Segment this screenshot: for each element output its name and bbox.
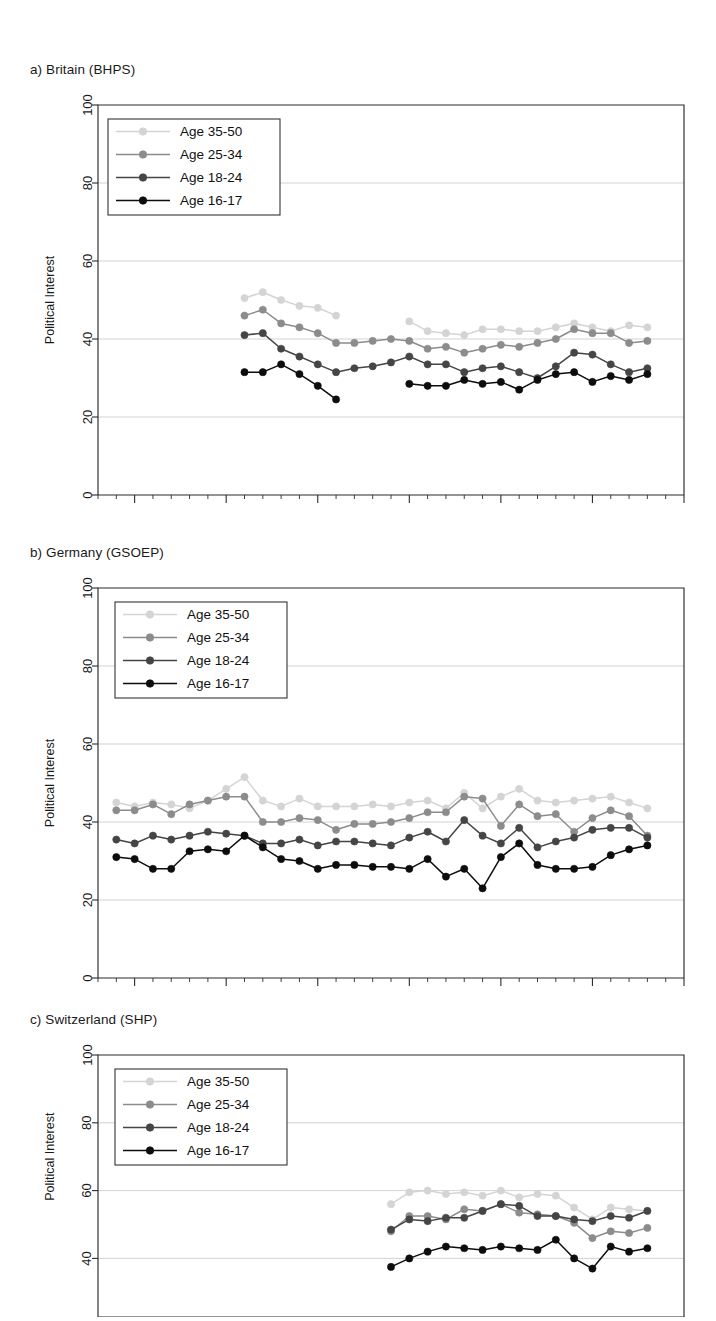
data-point [259,306,266,313]
data-point [351,861,358,868]
data-point [387,1226,394,1233]
y-tick-label: 80 [80,659,95,673]
data-point [479,832,486,839]
legend-swatch-marker-1 [146,611,154,619]
data-point [516,1245,523,1252]
data-point [534,797,541,804]
legend-label-4: Age 16-17 [180,193,242,208]
data-point [241,369,248,376]
data-point [131,855,138,862]
data-point [497,1243,504,1250]
data-point [387,359,394,366]
data-point [186,848,193,855]
data-point [589,351,596,358]
data-point [461,816,468,823]
data-point [552,1236,559,1243]
panel-c-chart: 406080100Political Interest1985199019952… [0,1027,716,1317]
data-point [552,811,559,818]
legend-swatch-marker-3 [146,657,154,665]
data-point [552,335,559,342]
data-point [424,1218,431,1225]
data-point [278,855,285,862]
data-point [589,815,596,822]
series-2 [113,793,651,839]
data-point [442,1243,449,1250]
legend: Age 35-50Age 25-34Age 18-24Age 16-17 [115,602,287,698]
legend-label-4: Age 16-17 [187,1143,249,1158]
data-point [589,1234,596,1241]
legend-label-2: Age 25-34 [187,1097,250,1112]
data-point [149,801,156,808]
legend-swatch-marker-2 [146,1101,154,1109]
data-point [406,380,413,387]
data-point [351,365,358,372]
data-point [625,339,632,346]
data-point [534,339,541,346]
legend-label-1: Age 35-50 [187,1074,249,1089]
data-point [369,863,376,870]
data-point [149,832,156,839]
series-line [116,836,647,889]
y-tick-label: 100 [80,1044,95,1066]
data-point [461,349,468,356]
data-point [552,324,559,331]
data-point [332,339,339,346]
y-tick-label: 60 [80,254,95,268]
data-point [589,795,596,802]
data-point [516,824,523,831]
legend-swatch-marker-4 [146,1147,154,1155]
data-point [369,801,376,808]
data-point [516,369,523,376]
data-point [387,335,394,342]
data-point [149,865,156,872]
data-point [406,1255,413,1262]
data-point [241,774,248,781]
data-point [424,1187,431,1194]
series-4 [387,1236,651,1272]
legend-label-3: Age 18-24 [187,653,250,668]
panel-britain: a) Britain (BHPS) 020406080100Political … [0,62,716,507]
data-point [369,363,376,370]
data-point [516,386,523,393]
y-axis-title: Political Interest [43,255,57,344]
data-point [644,805,651,812]
data-point [204,828,211,835]
data-point [314,361,321,368]
data-point [571,797,578,804]
data-point [332,803,339,810]
legend-label-3: Age 18-24 [180,170,243,185]
data-point [259,797,266,804]
y-tick-label: 40 [80,815,95,829]
data-point [479,805,486,812]
data-point [516,785,523,792]
data-point [223,785,230,792]
data-point [461,376,468,383]
data-point [589,863,596,870]
y-tick-label: 40 [80,1251,95,1265]
data-point [516,840,523,847]
data-point [113,836,120,843]
series-4 [113,832,651,892]
data-point [351,339,358,346]
data-point [461,1189,468,1196]
data-point [644,842,651,849]
data-point [461,865,468,872]
data-point [461,332,468,339]
data-point [625,813,632,820]
data-point [479,326,486,333]
data-point [644,337,651,344]
data-point [644,324,651,331]
data-point [625,799,632,806]
y-tick-label: 60 [80,737,95,751]
series-line [245,364,337,399]
data-point [552,1192,559,1199]
data-point [461,1214,468,1221]
data-point [223,793,230,800]
data-point [625,846,632,853]
data-point [424,361,431,368]
legend-swatch-marker-1 [139,128,147,136]
data-point [406,337,413,344]
data-point [625,322,632,329]
data-point [424,328,431,335]
data-point [571,326,578,333]
